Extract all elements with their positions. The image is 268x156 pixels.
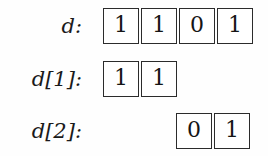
array-cells-d1: 1 1	[103, 53, 177, 105]
array-row-d: d: 1 1 0 1	[0, 0, 268, 52]
array-cell: 1	[217, 8, 253, 44]
array-cell: 1	[103, 61, 139, 97]
array-cell-value: 0	[190, 14, 204, 36]
array-cell-value: 1	[152, 67, 166, 89]
array-row-label-d: d:	[0, 0, 88, 52]
array-cell: 1	[214, 113, 250, 149]
array-cell: 0	[179, 8, 215, 44]
array-cells-d2: 0 1	[176, 105, 250, 156]
array-cell: 0	[176, 113, 212, 149]
array-cell: 1	[141, 8, 177, 44]
array-cell-value: 1	[152, 14, 166, 36]
array-cell-value: 1	[114, 67, 128, 89]
array-cell-value: 1	[225, 119, 239, 141]
array-slicing-diagram: d: 1 1 0 1 d[1]: 1 1 d[2]: 0 1	[0, 0, 268, 156]
array-row-label-d2: d[2]:	[0, 105, 88, 156]
array-cell-value: 1	[228, 14, 242, 36]
array-cell: 1	[141, 61, 177, 97]
array-cell-value: 1	[114, 14, 128, 36]
array-row-d1: d[1]: 1 1	[0, 53, 268, 105]
array-cell-value: 0	[187, 119, 201, 141]
array-cells-d: 1 1 0 1	[103, 0, 253, 52]
array-row-label-d1: d[1]:	[0, 53, 88, 105]
array-cell: 1	[103, 8, 139, 44]
array-row-d2: d[2]: 0 1	[0, 105, 268, 156]
